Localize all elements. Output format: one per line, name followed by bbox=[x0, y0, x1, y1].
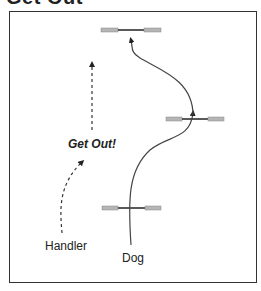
dog-label: Dog bbox=[122, 251, 144, 265]
dog-path-lower bbox=[130, 113, 193, 245]
jump-wing-left bbox=[101, 28, 118, 32]
right-jump bbox=[166, 117, 224, 121]
jump-wing-right bbox=[144, 28, 161, 32]
jump-wing-left bbox=[102, 206, 118, 210]
jump-wing-left bbox=[166, 117, 182, 121]
command-label: Get Out! bbox=[68, 137, 116, 151]
handler-label: Handler bbox=[45, 239, 87, 253]
dog-path-upper bbox=[131, 40, 193, 115]
bottom-jump bbox=[102, 206, 161, 210]
jump-wing-right bbox=[208, 117, 224, 121]
handler-path-lower bbox=[61, 162, 82, 233]
diagram-canvas bbox=[0, 0, 261, 291]
top-jump bbox=[101, 28, 161, 32]
jump-wing-right bbox=[145, 206, 161, 210]
